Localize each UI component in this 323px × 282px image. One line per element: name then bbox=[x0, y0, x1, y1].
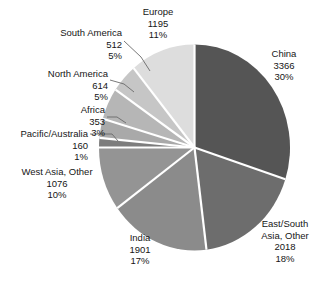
slice-label-west-asia-other-percent: 10% bbox=[8, 189, 106, 201]
slice-label-south-america-percent: 5% bbox=[38, 50, 122, 62]
slice-label-china-value: 3366 bbox=[258, 60, 310, 72]
slice-label-east-south-asia-other-name-line2: Asia, Other bbox=[249, 230, 321, 242]
slice-label-pacific-australia-percent: 1% bbox=[2, 151, 88, 163]
slice-label-china: China 3366 30% bbox=[258, 48, 310, 83]
slice-label-north-america-name: North America bbox=[18, 68, 108, 80]
slice-label-pacific-australia-value: 160 bbox=[2, 140, 88, 152]
slice-label-india-value: 1901 bbox=[114, 244, 166, 256]
slice-label-pacific-australia-name: Pacific/Australia bbox=[2, 128, 88, 140]
slice-label-pacific-australia: Pacific/Australia 160 1% bbox=[2, 128, 88, 163]
slice-label-europe-value: 1195 bbox=[131, 18, 185, 30]
slice-label-europe-name: Europe bbox=[131, 6, 185, 18]
slice-label-india-name: India bbox=[114, 232, 166, 244]
pie-chart-figure: Europe 1195 11% South America 512 5% Nor… bbox=[0, 0, 323, 282]
slice-label-east-south-asia-other: East/South Asia, Other 2018 18% bbox=[249, 218, 321, 264]
slice-label-east-south-asia-other-value: 2018 bbox=[249, 241, 321, 253]
slice-label-europe-percent: 11% bbox=[131, 29, 185, 41]
slice-label-south-america-name: South America bbox=[38, 27, 122, 39]
slice-label-china-percent: 30% bbox=[258, 71, 310, 83]
slice-label-south-america: South America 512 5% bbox=[38, 27, 122, 62]
slice-label-west-asia-other: West Asia, Other 1076 10% bbox=[8, 166, 106, 201]
slice-label-china-name: China bbox=[258, 48, 310, 60]
slice-label-africa-name: Africa bbox=[27, 104, 105, 116]
slice-label-north-america-value: 614 bbox=[18, 80, 108, 92]
slice-label-india-percent: 17% bbox=[114, 255, 166, 267]
slice-label-south-america-value: 512 bbox=[38, 39, 122, 51]
slice-label-india: India 1901 17% bbox=[114, 232, 166, 267]
slice-label-west-asia-other-name: West Asia, Other bbox=[8, 166, 106, 178]
slice-label-africa-value: 353 bbox=[27, 116, 105, 128]
slice-label-north-america-percent: 5% bbox=[18, 91, 108, 103]
slice-label-europe: Europe 1195 11% bbox=[131, 6, 185, 41]
slice-label-west-asia-other-value: 1076 bbox=[8, 178, 106, 190]
slice-label-north-america: North America 614 5% bbox=[18, 68, 108, 103]
slice-label-east-south-asia-other-percent: 18% bbox=[249, 253, 321, 265]
slice-label-east-south-asia-other-name-line1: East/South bbox=[249, 218, 321, 230]
